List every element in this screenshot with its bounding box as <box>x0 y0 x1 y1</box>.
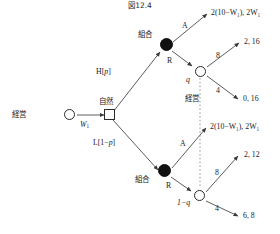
edge-union-low-reject <box>171 177 191 191</box>
edge-label-nature-high: H[p] <box>96 68 111 76</box>
edge-mgmt-high-up <box>207 43 239 67</box>
node-label-management-high: q <box>186 76 190 84</box>
edge-union-low-accept <box>172 128 206 168</box>
node-nature[interactable] <box>104 109 115 120</box>
node-management-high[interactable] <box>195 66 206 77</box>
edge-label-union-low-accept: A <box>180 140 186 148</box>
edge-label-mgmt-high-up: 8 <box>216 52 220 60</box>
node-management-low[interactable] <box>194 190 205 201</box>
edge-label-root-to-nature: W1 <box>80 121 89 129</box>
payoff-low-reject-down: 6, 8 <box>243 212 255 220</box>
information-set-label: 経営 <box>185 95 199 103</box>
edge-nature-high <box>113 52 160 112</box>
node-union-low[interactable] <box>158 164 171 177</box>
edge-label-union-low-reject: R <box>166 182 171 190</box>
edge-label-mgmt-low-down: 4 <box>215 205 219 213</box>
node-label-union-low: 組合 <box>135 176 149 184</box>
edge-mgmt-high-down <box>207 76 238 99</box>
edge-mgmt-low-up <box>206 156 238 192</box>
payoff-high-accept: 2(10−W₁), 2W₁ <box>211 9 260 17</box>
payoff-high-reject-down: 0, 16 <box>243 95 259 103</box>
edge-mgmt-low-down <box>206 201 238 216</box>
node-union-high[interactable] <box>160 38 173 51</box>
payoff-low-reject-up: 2, 12 <box>244 151 260 159</box>
edge-label-nature-low: L[1−p] <box>93 139 115 147</box>
edge-nature-low <box>113 120 158 170</box>
edge-label-mgmt-low-up: 8 <box>215 169 219 177</box>
node-label-management-root: 経営 <box>12 111 26 119</box>
node-label-union-high: 組合 <box>138 31 152 39</box>
edge-label-union-high-reject: R <box>167 57 172 65</box>
payoff-high-reject-up: 2, 16 <box>244 38 260 46</box>
payoff-low-accept: 2(10−W₁), 2W₁ <box>210 123 259 131</box>
edge-label-mgmt-high-down: 4 <box>216 87 220 95</box>
edge-label-union-high-accept: A <box>182 22 188 30</box>
edge-union-high-accept <box>173 14 207 42</box>
node-label-management-low: 1−q <box>177 199 190 207</box>
node-management-root[interactable] <box>64 109 75 120</box>
figure-root: 図12.4 <box>0 0 280 234</box>
node-label-nature: 自然 <box>99 98 113 106</box>
edge-union-high-reject <box>172 51 192 66</box>
